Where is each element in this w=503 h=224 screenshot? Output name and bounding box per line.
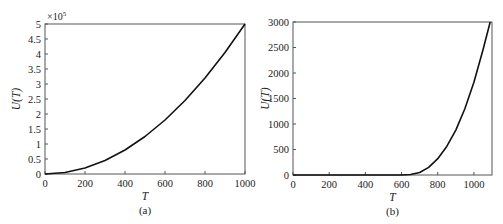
y-tick-label: 2.5	[28, 94, 41, 105]
y-axis-label: U(T)	[259, 87, 272, 110]
x-tick-label: 400	[117, 178, 133, 189]
figure: 0200400600800100000.511.522.533.544.55×1…	[0, 0, 503, 224]
x-tick-label: 1000	[235, 178, 256, 189]
y-tick-label: 3000	[268, 17, 289, 28]
x-tick-label: 0	[290, 179, 295, 190]
x-tick-label: 200	[321, 179, 337, 190]
y-tick-label: 2	[36, 109, 41, 120]
y-tick-label: 2500	[268, 42, 289, 53]
panel-caption: (b)	[386, 205, 399, 218]
panel-a: 0200400600800100000.511.522.533.544.55×1…	[10, 10, 256, 217]
x-tick-label: 800	[197, 178, 213, 189]
y-tick-label: 3	[36, 79, 41, 90]
y-axis-label: U(T)	[10, 88, 23, 111]
y-tick-label: 0.5	[28, 154, 41, 165]
x-tick-label: 800	[430, 179, 446, 190]
x-tick-label: 600	[394, 179, 410, 190]
y-tick-label: 4.5	[28, 34, 41, 45]
y-tick-label: 1	[36, 139, 41, 150]
x-tick-label: 0	[42, 178, 47, 189]
plot-frame	[45, 24, 245, 174]
y-tick-label: 0	[284, 170, 289, 181]
y-tick-label: 1.5	[28, 124, 41, 135]
panel-b: 0200400600800100005001000150020002500300…	[259, 17, 492, 219]
plot-frame	[293, 22, 492, 175]
panel-caption: (a)	[139, 204, 152, 217]
y-tick-label: 4	[36, 49, 42, 60]
y-tick-label: 5	[36, 19, 41, 30]
y-tick-label: 0	[36, 169, 41, 180]
y-tick-label: 3.5	[28, 64, 41, 75]
y-tick-label: 2000	[268, 68, 289, 79]
x-tick-label: 400	[357, 179, 373, 190]
y-multiplier: ×105	[47, 10, 67, 22]
x-axis-label: T	[142, 190, 150, 202]
y-tick-label: 1500	[268, 93, 289, 104]
data-curve	[45, 24, 245, 174]
y-tick-label: 500	[273, 144, 289, 155]
data-curve	[293, 22, 490, 175]
x-axis-label: T	[389, 191, 397, 203]
y-tick-label: 1000	[268, 119, 289, 130]
x-tick-label: 600	[157, 178, 173, 189]
x-tick-label: 1000	[463, 179, 484, 190]
x-tick-label: 200	[77, 178, 93, 189]
